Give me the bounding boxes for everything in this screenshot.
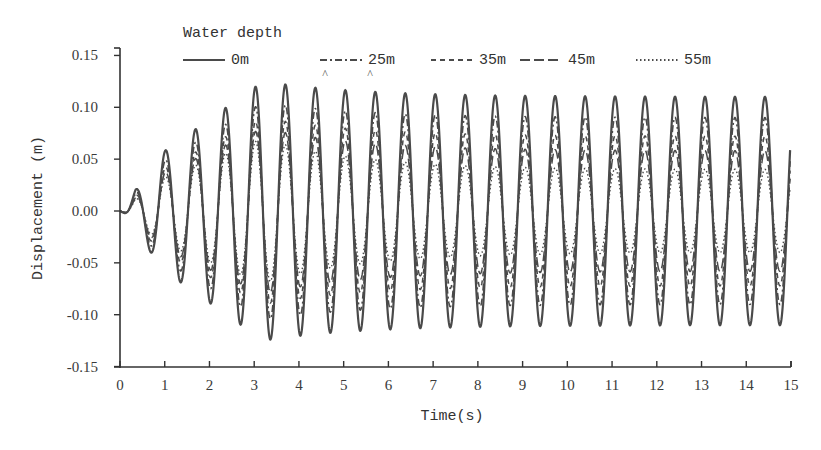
legend-label: 0m [231,52,249,69]
legend-title: Water depth [183,25,282,42]
caret-marker: ^ [322,67,328,81]
legend-entry-55m: 55m [636,52,711,69]
peak-markers: ^ ^ [322,67,373,81]
caret-marker: ^ [367,67,373,81]
legend-entry-35m: 35m [431,52,506,69]
x-tick-label: 10 [560,377,575,393]
x-tick-label: 9 [519,377,527,393]
x-axis-title: Time(s) [420,408,483,425]
x-tick-label: 8 [474,377,482,393]
x-tick-label: 0 [116,377,124,393]
x-tick-label: 15 [784,377,799,393]
legend-entry-0m: 0m [183,52,249,69]
x-tick-label: 12 [649,377,664,393]
displacement-chart: 0.150.100.050.00-0.05-0.10-0.15 01234567… [0,0,821,450]
plot-series [120,85,790,340]
legend-label: 45m [568,52,595,69]
series-line-0m [120,85,790,340]
legend-entry-25m: 25m [320,52,395,69]
y-tick-label: 0.05 [72,151,98,167]
x-tick-label: 13 [694,377,709,393]
legend-entry-45m: 45m [520,52,595,69]
x-ticks: 0123456789101112131415 [116,361,798,393]
y-tick-label: 0.00 [72,203,98,219]
x-tick-label: 7 [429,377,437,393]
x-tick-label: 2 [206,377,214,393]
legend-entries: 0m25m35m45m55m [183,52,711,69]
y-axis-title: Displacement (m) [30,136,47,280]
y-ticks: 0.150.100.050.00-0.05-0.10-0.15 [67,47,120,374]
legend-label: 55m [684,52,711,69]
x-tick-label: 3 [250,377,258,393]
legend: Water depth 0m25m35m45m55m [183,25,711,69]
axes: 0.150.100.050.00-0.05-0.10-0.15 01234567… [67,47,799,393]
y-tick-label: -0.05 [67,255,98,271]
y-tick-label: -0.15 [67,359,98,375]
y-tick-label: 0.15 [72,47,98,63]
legend-label: 35m [479,52,506,69]
x-tick-label: 4 [295,377,303,393]
x-tick-label: 5 [340,377,348,393]
y-tick-label: -0.10 [67,307,98,323]
x-tick-label: 1 [161,377,169,393]
x-tick-label: 14 [739,377,755,393]
y-tick-label: 0.10 [72,99,98,115]
x-tick-label: 6 [385,377,393,393]
x-tick-label: 11 [605,377,619,393]
